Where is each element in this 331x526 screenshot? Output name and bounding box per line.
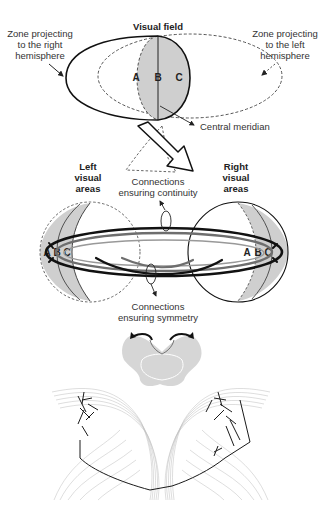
right-areas-label-1: Right xyxy=(224,161,249,172)
symmetry-label-1: Connections xyxy=(132,301,185,312)
right-zone-pointer-arrow xyxy=(262,64,275,75)
right-zone-label-3: hemisphere xyxy=(260,50,310,61)
left-areas-label-1: Left xyxy=(79,161,97,172)
fiber-bundles xyxy=(52,388,270,500)
right-areas-label-3: areas xyxy=(224,183,249,194)
hemispheres-panel: Left visual areas Right visual areas Con… xyxy=(40,161,288,323)
continuity-label-1: Connections xyxy=(132,176,185,187)
right-zone-label-2: to the left xyxy=(265,39,304,50)
figure: Visual field A B C Zone projecting to th… xyxy=(0,0,331,526)
visual-field-panel: Visual field A B C Zone projecting to th… xyxy=(7,21,317,132)
continuity-label-2: ensuring continuity xyxy=(118,187,197,198)
left-areas-label-3: areas xyxy=(76,183,101,194)
zone-a-label: A xyxy=(132,72,139,83)
zone-c-label: C xyxy=(175,72,182,83)
central-meridian-label: Central meridian xyxy=(200,121,270,132)
neuron-tracing xyxy=(52,388,270,500)
symmetry-label-2: ensuring symmetry xyxy=(118,312,198,323)
traced-axons xyxy=(78,392,250,490)
left-zone-label-2: to the right xyxy=(18,39,63,50)
brain-section xyxy=(122,332,202,386)
projection-arrow-icon xyxy=(138,122,193,171)
right-zone-a: A xyxy=(243,247,250,258)
left-zone-pointer-arrow xyxy=(49,64,63,76)
right-zone-label-1: Zone projecting xyxy=(252,28,317,39)
left-areas-label-2: visual xyxy=(75,172,102,183)
left-zone-label-1: Zone projecting xyxy=(7,28,72,39)
right-areas-label-2: visual xyxy=(223,172,250,183)
visual-field-title: Visual field xyxy=(133,21,183,32)
projection-arrow-group xyxy=(126,122,193,172)
left-zone-label-3: hemisphere xyxy=(15,50,65,61)
zone-b-label: B xyxy=(154,72,161,83)
